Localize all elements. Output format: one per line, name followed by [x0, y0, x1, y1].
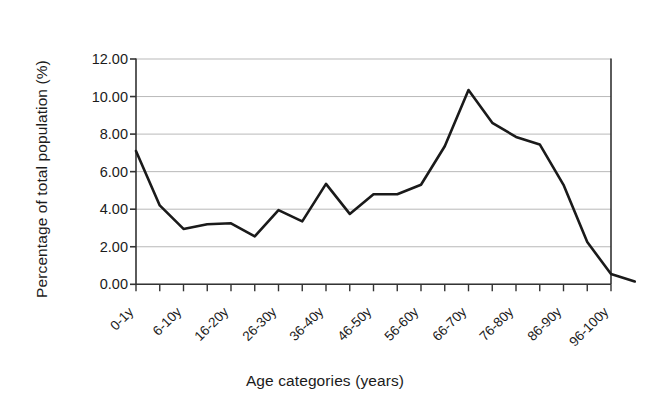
y-tick-label: 8.00 — [100, 126, 128, 142]
y-tick-label: 4.00 — [100, 201, 128, 217]
y-tick-label: 0.00 — [100, 276, 128, 292]
y-tick-label: 10.00 — [92, 89, 128, 105]
y-axis-tick-labels: 0.002.004.006.008.0010.0012.00 — [56, 0, 128, 416]
y-tick-label: 6.00 — [100, 164, 128, 180]
population-age-distribution-chart: Percentage of total population (%) Age c… — [0, 0, 650, 416]
data-series — [136, 90, 635, 282]
data-line — [136, 90, 635, 282]
y-tick-label: 12.00 — [92, 51, 128, 67]
y-tick-label: 2.00 — [100, 239, 128, 255]
grid-lines — [136, 59, 611, 284]
y-axis-title: Percentage of total population (%) — [33, 39, 51, 319]
tick-marks — [130, 59, 611, 291]
